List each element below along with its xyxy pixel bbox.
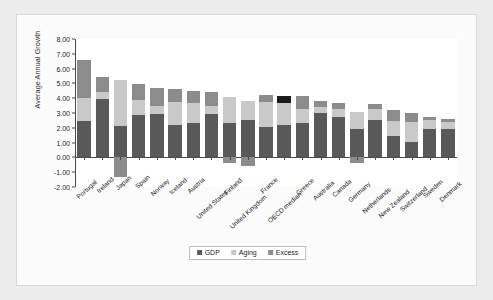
- bar-segment-aging: [223, 97, 236, 122]
- x-tick-mark: [321, 157, 322, 160]
- bar-group[interactable]: [350, 39, 363, 187]
- bar-segment-gdp: [150, 114, 163, 158]
- y-tick-label: 5.00: [56, 80, 70, 87]
- bar-group[interactable]: [150, 39, 163, 187]
- bar-group[interactable]: [423, 39, 436, 187]
- bar-segment-gdp: [168, 125, 181, 158]
- chart-panel: Average Annual Growth -2.00-1.000.001.00…: [16, 14, 477, 286]
- bar-segment-gdp: [314, 113, 327, 157]
- plot-area: -2.00-1.000.001.002.003.004.005.006.007.…: [75, 39, 457, 187]
- bar-group[interactable]: [114, 39, 127, 187]
- legend-item[interactable]: Aging: [231, 249, 257, 256]
- x-tick-mark: [412, 157, 413, 160]
- y-axis-title: Average Annual Growth: [33, 10, 42, 130]
- bar-group[interactable]: [241, 39, 254, 187]
- y-tick-mark: [72, 68, 75, 69]
- bar-group[interactable]: [132, 39, 145, 187]
- bar-group[interactable]: [368, 39, 381, 187]
- legend-item[interactable]: Excess: [268, 249, 299, 256]
- bar-segment-aging: [114, 80, 127, 125]
- bar-segment-aging: [96, 92, 109, 99]
- bar-group[interactable]: [441, 39, 454, 187]
- bar-segment-gdp: [187, 123, 200, 158]
- chart-inner: Average Annual Growth -2.00-1.000.001.00…: [17, 15, 478, 287]
- x-tick-mark: [357, 157, 358, 160]
- x-tick-mark: [102, 157, 103, 160]
- bar-segment-excess: [314, 101, 327, 107]
- x-tick-mark: [266, 157, 267, 160]
- x-tick-mark: [211, 157, 212, 160]
- bar-group[interactable]: [96, 39, 109, 187]
- y-tick-mark: [72, 142, 75, 143]
- bar-group[interactable]: [277, 39, 290, 187]
- bar-group[interactable]: [187, 39, 200, 187]
- legend-swatch-icon: [231, 250, 236, 255]
- x-tick-mark: [284, 157, 285, 160]
- bar-segment-gdp: [441, 129, 454, 158]
- y-tick-label: -1.00: [54, 169, 70, 176]
- bar-segment-excess: [187, 91, 200, 103]
- bar-segment-gdp: [387, 136, 400, 157]
- bar-group[interactable]: [259, 39, 272, 187]
- bar-segment-excess: [387, 110, 400, 121]
- bar-segment-aging: [168, 102, 181, 125]
- bar-group[interactable]: [168, 39, 181, 187]
- y-tick-mark: [72, 127, 75, 128]
- x-tick-label: OECD median: [267, 191, 303, 225]
- bar-segment-aging: [350, 112, 363, 129]
- x-tick-mark: [430, 157, 431, 160]
- legend-label: GDP: [205, 249, 220, 256]
- bar-segment-aging: [314, 107, 327, 113]
- bar-segment-aging: [296, 109, 309, 123]
- legend-label: Aging: [239, 249, 257, 256]
- bar-segment-aging: [132, 100, 145, 115]
- y-tick-mark: [72, 39, 75, 40]
- y-tick-label: 4.00: [56, 95, 70, 102]
- bar-segment-aging: [77, 98, 90, 121]
- bar-segment-excess: [259, 95, 272, 102]
- bar-segment-excess: [332, 103, 345, 110]
- bar-segment-excess: [96, 77, 109, 92]
- y-tick-label: 3.00: [56, 110, 70, 117]
- bar-segment-gdp: [205, 114, 218, 158]
- y-tick-mark: [72, 187, 75, 188]
- bar-segment-excess: [405, 113, 418, 122]
- x-tick-mark: [157, 157, 158, 160]
- y-tick-mark: [72, 113, 75, 114]
- bar-segment-gdp: [132, 115, 145, 157]
- y-tick-label: 8.00: [56, 36, 70, 43]
- x-tick-mark: [175, 157, 176, 160]
- bar-segment-aging: [259, 102, 272, 127]
- y-tick-label: 6.00: [56, 65, 70, 72]
- bar-group[interactable]: [77, 39, 90, 187]
- x-tick-mark: [84, 157, 85, 160]
- bar-segment-aging: [368, 109, 381, 120]
- bar-group[interactable]: [387, 39, 400, 187]
- bar-segment-aging: [387, 121, 400, 136]
- x-tick-mark: [139, 157, 140, 160]
- y-tick-label: 7.00: [56, 50, 70, 57]
- bar-segment-excess: [423, 117, 436, 120]
- bar-group[interactable]: [405, 39, 418, 187]
- bar-segment-excess: [441, 119, 454, 122]
- bar-segment-gdp: [114, 126, 127, 158]
- bar-group[interactable]: [205, 39, 218, 187]
- bar-segment-gdp: [77, 121, 90, 157]
- bar-segment-gdp: [96, 99, 109, 157]
- bar-group[interactable]: [296, 39, 309, 187]
- legend-label: Excess: [276, 249, 299, 256]
- bar-segment-gdp: [259, 127, 272, 157]
- bar-group[interactable]: [223, 39, 236, 187]
- bar-segment-excess: [132, 84, 145, 100]
- y-tick-label: -2.00: [54, 184, 70, 191]
- bar-segment-aging: [441, 122, 454, 129]
- bar-segment-aging: [150, 106, 163, 114]
- x-tick-mark: [248, 157, 249, 160]
- bar-group[interactable]: [332, 39, 345, 187]
- legend-item[interactable]: GDP: [197, 249, 220, 256]
- x-tick-label: United Kingdom: [228, 194, 268, 231]
- y-tick-mark: [72, 172, 75, 173]
- bar-group[interactable]: [314, 39, 327, 187]
- y-tick-label: 2.00: [56, 124, 70, 131]
- bar-segment-aging: [205, 106, 218, 114]
